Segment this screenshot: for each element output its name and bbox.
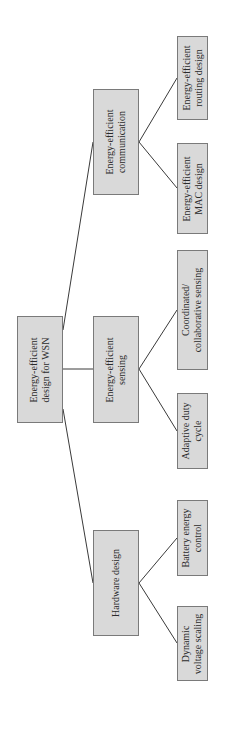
leaf-node-mac: Energy-efficient MAC design	[177, 143, 208, 234]
leaf-node-dynamic-voltage-scaling: Dynamic voltage scaling	[177, 606, 208, 681]
branch-node-label: Hardware design	[110, 549, 122, 617]
leaf-node-label: Adaptive duty cycle	[181, 403, 205, 460]
branch-node-label: Energy-efficient sensing	[104, 337, 128, 402]
branch-node-communication: Energy-efficient communication	[93, 89, 139, 195]
leaf-node-label: Coordinated/ collaborative sensing	[181, 268, 205, 353]
leaf-node-label: Energy-efficient MAC design	[181, 156, 205, 221]
leaf-node-adaptive-duty-cycle: Adaptive duty cycle	[177, 393, 208, 469]
leaf-node-coordinated-sensing: Coordinated/ collaborative sensing	[177, 250, 208, 370]
leaf-node-label: Battery energy control	[181, 509, 205, 568]
root-node: Energy-efficient design for WSN	[17, 316, 63, 423]
branch-node-sensing: Energy-efficient sensing	[93, 316, 139, 423]
root-node-label: Energy-efficient design for WSN	[28, 337, 52, 402]
leaf-node-label: Dynamic voltage scaling	[181, 613, 205, 673]
leaf-node-battery-energy-control: Battery energy control	[177, 500, 208, 576]
leaf-node-label: Energy-efficient routing design	[181, 45, 205, 110]
leaf-node-routing: Energy-efficient routing design	[177, 36, 208, 120]
branch-node-label: Energy-efficient communication	[104, 109, 128, 174]
branch-node-hardware: Hardware design	[93, 530, 139, 636]
